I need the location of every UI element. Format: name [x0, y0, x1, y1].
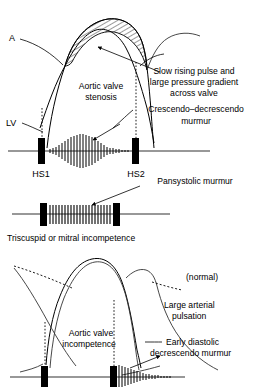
arrow-pansystolic-murmur — [92, 186, 140, 205]
panel-aortic-stenosis: A LV Aortic valve stenosis Slow rising p… — [6, 19, 244, 179]
early-diastolic-decrescendo-murmur-spikes — [119, 365, 170, 387]
leader-normal-label-left — [14, 266, 72, 288]
label-left-ventricle: LV — [6, 118, 16, 128]
annotation-large-arterial-pulsation-line1: Large arterial — [164, 300, 215, 310]
annotation-slow-rising-pulse-line3: across valve — [170, 88, 218, 98]
pansystolic-heart-sound-1-block — [40, 203, 47, 226]
label-hs2: HS2 — [127, 169, 145, 179]
annotation-early-diastolic-line2: decrescendo murmur — [150, 348, 231, 358]
arrow-early-diastolic — [130, 356, 160, 368]
pansystolic-heart-sound-2-block — [113, 203, 120, 226]
cardiac-murmur-figure: A LV Aortic valve stenosis Slow rising p… — [0, 0, 257, 387]
label-aorta: A — [9, 33, 15, 43]
panel-aortic-incompetence: (normal) Large arterial pulsation Aortic… — [10, 258, 231, 387]
heart-sound-2-block — [132, 138, 139, 164]
ai-left-tail-curve — [20, 364, 43, 372]
annotation-crescendo-decrescendo-line1: Crescendo–decrescendo — [148, 104, 244, 114]
label-aortic-valve-incompetence-line1: Aortic valve — [69, 328, 114, 338]
annotation-crescendo-decrescendo-line2: murmur — [181, 116, 211, 126]
annotation-pansystolic-murmur: Pansystolic murmur — [157, 176, 233, 186]
annotation-slow-rising-pulse-line2: large pressure gradient — [150, 77, 239, 87]
pressure-gradient-hatch — [65, 19, 147, 70]
label-hs1: HS1 — [32, 169, 50, 179]
crescendo-decrescendo-murmur-spikes — [50, 134, 128, 168]
annotation-large-arterial-pulsation-line2: pulsation — [172, 311, 207, 321]
panel-pansystolic: Pansystolic murmur — [7, 176, 233, 243]
heart-sound-1-block — [38, 138, 45, 164]
label-aortic-valve-stenosis-line2: stenosis — [85, 92, 117, 102]
leader-crescendo-decrescendo — [113, 110, 133, 128]
figure-root: A LV Aortic valve stenosis Slow rising p… — [0, 0, 257, 387]
dicrotic-tail-curve — [147, 33, 200, 70]
annotation-early-diastolic-line1: Early diastolic — [166, 337, 220, 347]
leader-aorta — [20, 39, 63, 65]
ai-heart-sound-2-block — [110, 366, 117, 387]
label-aortic-valve-incompetence-line2: incompetence — [62, 339, 116, 349]
leader-normal-label — [152, 282, 182, 290]
caption-tricuspid-mitral-incompetence: Triscuspid or mitral incompetence — [7, 233, 135, 243]
label-aortic-valve-stenosis-line1: Aortic valve — [79, 81, 124, 91]
ai-aortic-pressure-curve — [50, 262, 139, 370]
label-normal: (normal) — [186, 272, 218, 282]
ai-lv-pressure-curve — [46, 258, 141, 368]
arrow-pressure-gradient — [98, 47, 160, 72]
ai-heart-sound-1-block — [41, 366, 48, 387]
annotation-slow-rising-pulse-line1: Slow rising pulse and — [153, 66, 234, 76]
arrow-crescendo-decrescendo — [93, 124, 120, 140]
pansystolic-murmur-spikes — [50, 205, 110, 224]
